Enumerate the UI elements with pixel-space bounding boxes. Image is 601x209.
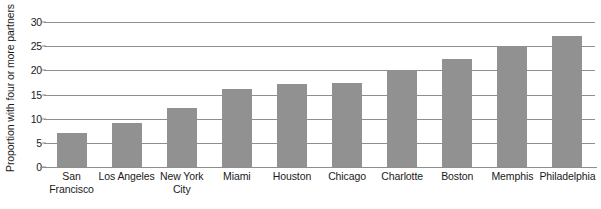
bar <box>442 59 472 167</box>
bar <box>222 89 252 167</box>
bar <box>277 84 307 167</box>
x-tick-label: Philadelphia <box>534 170 601 183</box>
bar <box>552 36 582 167</box>
x-axis-labels: SanFranciscoLos AngelesNew YorkCityMiami… <box>44 170 595 208</box>
y-tick-label: 30 <box>20 16 42 28</box>
y-tick-label: 20 <box>20 64 42 76</box>
bar-chart: Proportion with four or more partners 05… <box>0 0 601 209</box>
bar <box>497 46 527 167</box>
y-tick-label: 10 <box>20 113 42 125</box>
y-tick-label: 25 <box>20 40 42 52</box>
bar <box>112 123 142 167</box>
x-axis-line <box>40 167 597 168</box>
y-axis-ticks: 051015202530 <box>16 22 42 167</box>
bars-layer <box>44 22 595 167</box>
bar <box>387 70 417 167</box>
y-tick-label: 5 <box>20 137 42 149</box>
bar <box>57 133 87 167</box>
y-tick-label: 15 <box>20 89 42 101</box>
bar <box>167 108 197 167</box>
bar <box>332 83 362 167</box>
